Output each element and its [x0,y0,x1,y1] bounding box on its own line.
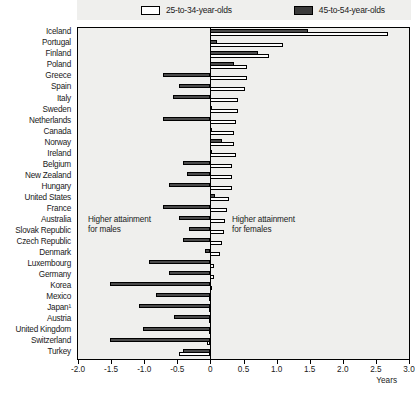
bar-czech-republic-25-34 [210,241,222,245]
bar-new-zealand-45-54 [187,172,210,176]
x-axis-label: -1.5 [104,365,118,374]
bar-united-states-25-34 [210,197,229,201]
annotation-males: Higher attainment for males [88,215,151,235]
annotation-females: Higher attainment for females [232,215,295,235]
bar-korea-25-34 [210,286,212,290]
x-axis-label: 1.0 [271,365,282,374]
x-tick [177,360,178,364]
bar-united-kingdom-45-54 [143,327,211,331]
bar-poland-25-34 [210,65,246,69]
y-axis-label-france: France [47,205,71,213]
bar-czech-republic-45-54 [183,238,211,242]
y-axis-label-united-states: United States [24,194,71,202]
y-axis-label-belgium: Belgium [43,161,71,169]
bar-iceland-25-34 [210,32,387,36]
bar-luxembourg-45-54 [149,260,210,264]
y-axis-label-sweden: Sweden [43,106,71,114]
x-axis-label: 3.0 [403,365,414,374]
bar-korea-45-54 [110,282,211,286]
y-axis-label-czech-republic: Czech Republic [16,238,71,246]
bar-netherlands-25-34 [210,120,235,124]
bar-hungary-45-54 [169,183,210,187]
y-axis-label-germany: Germany [39,271,71,279]
legend-item-25-to-34: 25-to-34-year-olds [141,5,232,15]
x-tick [144,360,145,364]
y-axis-label-norway: Norway [44,139,71,147]
bar-slovak-republic-25-34 [210,230,223,234]
bar-australia-45-54 [179,216,210,220]
bar-finland-25-34 [210,54,268,58]
bar-slovak-republic-45-54 [189,227,210,231]
x-axis-label: 2.0 [337,365,348,374]
y-axis-label-korea: Korea [50,282,71,290]
y-axis-label-canada: Canada [44,128,71,136]
y-axis-label-denmark: Denmark [39,249,71,257]
y-axis-label-greece: Greece [45,72,71,80]
x-axis-label: 0.5 [238,365,249,374]
bar-mexico-25-34 [209,297,211,301]
x-axis-label: -1.0 [137,365,151,374]
bar-australia-25-34 [210,219,225,223]
y-axis-label-spain: Spain [51,83,71,91]
x-tick [244,360,245,364]
y-axis-label-austria: Austria [47,315,71,323]
legend-item-45-to-54: 45-to-54-year-olds [294,5,385,15]
bar-netherlands-45-54 [163,117,211,121]
x-axis-label: -0.5 [170,365,184,374]
x-axis-label: 0 [208,365,213,374]
bar-norway-25-34 [210,142,233,146]
bar-belgium-45-54 [183,161,211,165]
bar-portugal-25-34 [210,43,283,47]
bar-spain-25-34 [210,87,244,91]
y-axis-label-mexico: Mexico [46,293,71,301]
bar-new-zealand-25-34 [210,175,231,179]
y-axis-label-hungary: Hungary [41,183,71,191]
bar-austria-25-34 [209,319,211,323]
x-axis-labels: -2.0-1.5-1.0-0.500.51.01.52.02.53.0 [0,365,411,377]
bar-germany-45-54 [169,271,210,275]
legend-label-25-to-34: 25-to-34-year-olds [166,5,232,15]
y-axis-labels: IcelandPortugalFinlandPolandGreeceSpainI… [0,27,75,360]
y-axis-label-slovak-republic: Slovak Republic [15,227,71,235]
bar-spain-45-54 [179,84,210,88]
y-axis-label-poland: Poland [47,61,71,69]
bar-united-kingdom-25-34 [209,330,211,334]
bar-france-25-34 [210,208,227,212]
x-tick [277,360,278,364]
y-axis-label-united-kingdom: United Kingdom [16,326,71,334]
y-axis-label-turkey: Turkey [47,348,71,356]
y-axis-label-netherlands: Netherlands [29,117,71,125]
x-tick [78,360,79,364]
x-tick [376,360,377,364]
y-axis-label-finland: Finland [46,50,71,58]
x-axis-label: 1.5 [304,365,315,374]
legend-label-45-to-54: 45-to-54-year-olds [319,5,385,15]
y-axis-label-japan-: Japan¹ [47,304,71,312]
bar-sweden-25-34 [210,109,238,113]
x-tick [409,360,410,364]
legend-swatch-light-icon [141,6,160,15]
y-axis-label-new-zealand: New Zealand [25,172,71,180]
bar-japan--45-54 [139,304,210,308]
bar-italy-25-34 [210,98,238,102]
x-tick [210,360,211,364]
bar-hungary-25-34 [210,186,231,190]
bar-ireland-25-34 [210,153,235,157]
y-axis-label-italy: Italy [57,95,71,103]
x-tick [343,360,344,364]
plot-area [77,27,410,360]
y-axis-label-iceland: Iceland [46,28,71,36]
bar-denmark-25-34 [210,252,220,256]
bar-turkey-25-34 [179,352,211,356]
x-axis-title: Years [376,376,397,385]
y-axis-label-portugal: Portugal [42,39,71,47]
bar-greece-45-54 [163,73,211,77]
bar-germany-25-34 [210,275,213,279]
bar-austria-45-54 [174,315,210,319]
legend-swatch-dark-icon [294,6,313,15]
y-axis-label-switzerland: Switzerland [31,337,71,345]
x-axis-label: -2.0 [71,365,85,374]
bar-france-45-54 [163,205,211,209]
bar-japan--25-34 [209,308,211,312]
